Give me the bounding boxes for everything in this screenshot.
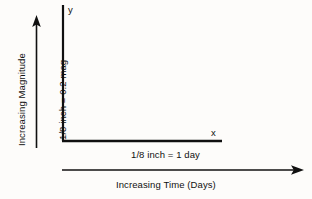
- plot-axes: [62, 5, 222, 141]
- y-axis-scale-note: 1/8 inch = 0.2 mag: [58, 60, 68, 140]
- axes-diagram: Increasing Magnitude 1/8 inch = 0.2 mag …: [0, 0, 312, 199]
- y-axis-caption: Increasing Magnitude: [17, 53, 27, 146]
- x-axis-scale-note: 1/8 inch = 1 day: [131, 150, 200, 160]
- increasing-magnitude-arrow: [32, 15, 41, 148]
- increasing-time-arrow: [62, 165, 304, 175]
- x-axis-label: x: [211, 128, 216, 138]
- diagram-canvas: [0, 0, 312, 199]
- x-axis-caption: Increasing Time (Days): [116, 180, 216, 190]
- y-axis-label: y: [68, 5, 73, 15]
